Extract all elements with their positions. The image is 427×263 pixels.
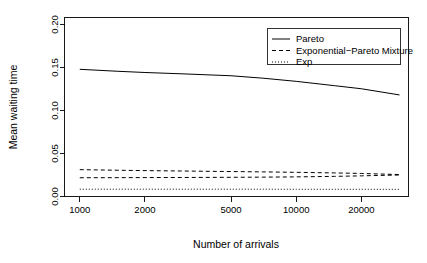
chart-plot: 0.000.050.100.150.20 1000200050001000020… [0, 0, 427, 263]
y-tick-label: 0.05 [49, 144, 60, 163]
legend-entry-label: Exponential−Pareto Mixture [296, 45, 413, 56]
x-tick-label: 10000 [283, 204, 309, 215]
y-tick-label: 0.20 [49, 15, 60, 33]
x-tick-label: 5000 [221, 204, 242, 215]
figure-container: 0.000.050.100.150.20 1000200050001000020… [0, 0, 427, 263]
series-line [80, 69, 400, 95]
legend-entry-label: Pareto [296, 33, 324, 44]
y-tick-label: 0.15 [49, 58, 60, 77]
data-series-group [80, 69, 400, 189]
chart-legend: ParetoExponential−Pareto MixtureExp [268, 29, 413, 68]
series-line [80, 175, 400, 178]
y-tick-label: 0.10 [49, 101, 60, 120]
y-axis-label: Mean waiting time [7, 65, 19, 150]
series-line [80, 170, 400, 175]
x-axis-ticks: 1000200050001000020000 [69, 197, 374, 215]
legend-entry-label: Exp [296, 56, 312, 67]
y-tick-label: 0.00 [49, 187, 60, 206]
x-tick-label: 20000 [348, 204, 374, 215]
x-axis-label: Number of arrivals [193, 238, 279, 250]
y-axis-ticks: 0.000.050.100.150.20 [49, 15, 64, 206]
x-tick-label: 1000 [69, 204, 90, 215]
x-tick-label: 2000 [134, 204, 155, 215]
